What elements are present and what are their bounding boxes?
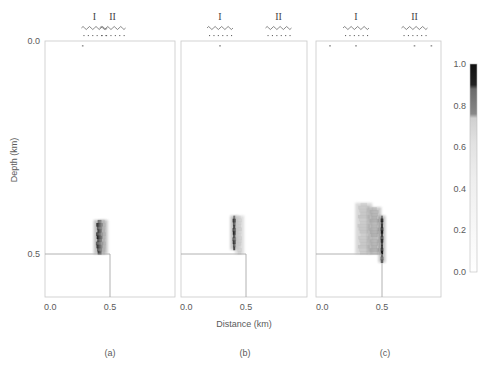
anomaly-cell — [237, 219, 241, 222]
dot — [367, 35, 368, 36]
anomaly-cell — [360, 230, 368, 234]
anomaly-cell — [238, 216, 241, 219]
anomaly-cell — [381, 216, 383, 219]
anomaly-cell — [101, 242, 106, 246]
anomaly-cell — [102, 229, 105, 233]
x-tick: 0.5 — [240, 302, 253, 312]
anomaly — [235, 216, 244, 255]
dot — [102, 35, 103, 36]
anomaly-cell — [369, 228, 379, 231]
anomaly-cell — [381, 242, 383, 245]
surface-point — [329, 45, 331, 47]
dot — [349, 35, 350, 36]
marker-label: I — [354, 11, 357, 22]
marker-label: I — [93, 11, 96, 22]
anomaly-cell — [237, 239, 241, 242]
marker-II: II — [100, 11, 126, 36]
colorbar-tick: 1.0 — [453, 59, 466, 69]
y-tick-0: 0.0 — [27, 36, 40, 46]
colorbar-tick: 0.8 — [453, 101, 466, 111]
colorbar-tick: 0.4 — [453, 184, 466, 194]
anomaly-cell — [238, 222, 242, 225]
y-tick-1: 0.5 — [27, 249, 40, 259]
anomaly-cell — [381, 248, 384, 251]
dot — [227, 35, 228, 36]
dot — [421, 35, 422, 36]
surface-point — [355, 45, 357, 47]
dot — [106, 35, 107, 36]
dot — [92, 35, 93, 36]
dot — [83, 35, 84, 36]
anomaly-cell — [101, 232, 106, 236]
dot — [363, 35, 364, 36]
panel-c: III0.00.5(c) — [316, 11, 441, 358]
wave-icon — [207, 27, 233, 30]
anomaly-cell — [381, 222, 383, 225]
anomaly-cell — [360, 221, 368, 225]
panel-caption: (c) — [380, 348, 391, 358]
x-tick: 0.0 — [316, 302, 329, 312]
wave-icon — [343, 27, 369, 30]
anomaly-cell — [101, 223, 105, 227]
dot — [412, 35, 413, 36]
dot — [119, 35, 120, 36]
anomaly-cell — [372, 207, 377, 210]
dot — [115, 35, 116, 36]
marker-label: II — [275, 11, 282, 22]
dot — [276, 35, 277, 36]
surface-point — [431, 45, 433, 47]
marker-label: II — [109, 11, 116, 22]
dot — [404, 35, 405, 36]
marker-I: I — [81, 11, 107, 36]
dot — [110, 35, 111, 36]
surface-point — [219, 45, 221, 47]
dot — [285, 35, 286, 36]
colorbar-bar — [470, 64, 477, 272]
dot — [281, 35, 282, 36]
anomaly-cell — [102, 220, 105, 224]
panel-b: III0.00.5(b) — [180, 11, 307, 358]
panel-caption: (b) — [240, 348, 251, 358]
anomaly-cell — [371, 242, 378, 245]
wave-icon — [266, 27, 292, 30]
figure: Depth (km) Distance (km) 0.0 0.5 III0.00… — [0, 0, 486, 371]
anomaly-cell — [370, 231, 378, 234]
dot — [358, 35, 359, 36]
dot — [231, 35, 232, 36]
x-axis-label: Distance (km) — [216, 319, 272, 329]
dot — [268, 35, 269, 36]
anomaly-cell — [370, 222, 378, 225]
marker-label: II — [411, 11, 418, 22]
anomaly-cell — [370, 219, 379, 222]
anomaly-cell — [359, 209, 368, 213]
anomaly-cell — [102, 235, 106, 239]
dot — [222, 35, 223, 36]
colorbar-tick: 0.2 — [453, 225, 466, 235]
surface-point — [82, 45, 84, 47]
y-axis-label: Depth (km) — [9, 138, 19, 183]
anomaly-cell — [371, 216, 377, 219]
dot — [345, 35, 346, 36]
dot — [124, 35, 125, 36]
dot — [408, 35, 409, 36]
anomaly-cell — [381, 224, 383, 227]
anomaly-cell — [381, 233, 383, 236]
colorbar-tick: 0.6 — [453, 142, 466, 152]
anomaly-cell — [370, 210, 379, 213]
anomaly-cell — [361, 203, 368, 207]
colorbar-tick: 0.0 — [453, 267, 466, 277]
panel-a: III0.00.5(a) — [44, 11, 175, 358]
anomaly-cell — [360, 212, 367, 216]
anomaly-cell — [102, 239, 105, 243]
anomaly-cell — [102, 226, 106, 230]
marker-label: I — [218, 11, 221, 22]
anomaly-cell — [370, 248, 379, 251]
anomaly-cell — [381, 219, 384, 222]
marker-I: I — [343, 11, 369, 36]
anomaly-cell — [371, 245, 377, 248]
dot — [218, 35, 219, 36]
dot — [290, 35, 291, 36]
anomaly-cell — [238, 245, 241, 248]
anomaly-cell — [238, 230, 242, 233]
anomaly-cell — [361, 233, 368, 237]
